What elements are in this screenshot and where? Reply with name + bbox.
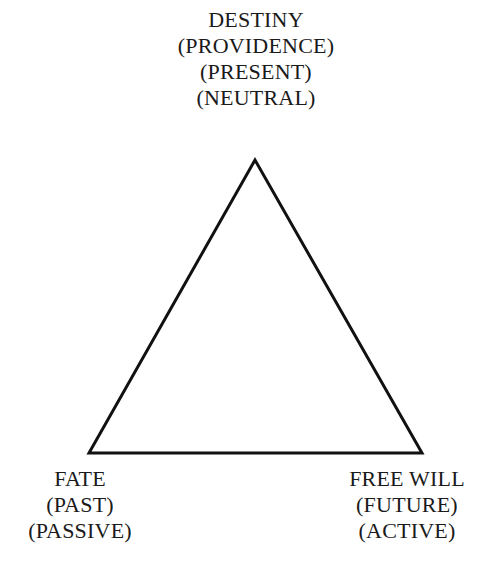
free-will-active: (ACTIVE) xyxy=(322,518,492,544)
vertex-label-free-will: FREE WILL (FUTURE) (ACTIVE) xyxy=(322,466,492,544)
vertex-label-destiny: DESTINY (PROVIDENCE) (PRESENT) (NEUTRAL) xyxy=(156,7,356,111)
fate-title: FATE xyxy=(0,466,160,492)
triangle-shape xyxy=(89,160,422,453)
destiny-present: (PRESENT) xyxy=(156,59,356,85)
destiny-title: DESTINY xyxy=(156,7,356,33)
fate-past: (PAST) xyxy=(0,492,160,518)
free-will-title: FREE WILL xyxy=(322,466,492,492)
destiny-neutral: (NEUTRAL) xyxy=(156,85,356,111)
vertex-label-fate: FATE (PAST) (PASSIVE) xyxy=(0,466,160,544)
destiny-providence: (PROVIDENCE) xyxy=(156,33,356,59)
fate-passive: (PASSIVE) xyxy=(0,518,160,544)
free-will-future: (FUTURE) xyxy=(322,492,492,518)
